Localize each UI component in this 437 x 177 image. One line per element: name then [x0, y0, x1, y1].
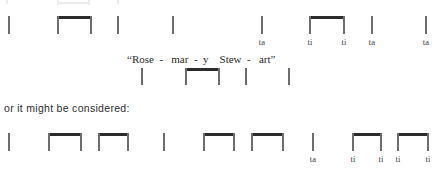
beam-bar: [48, 133, 82, 136]
syllable-label: ti: [341, 37, 346, 47]
quarter-note-stem: [425, 16, 427, 34]
syllable-label: ta: [369, 37, 376, 47]
eighth-note-stem-right: [282, 133, 284, 151]
top-edge-artifact: [57, 2, 90, 4]
beam-bar: [203, 133, 235, 136]
prose-line: or it might be considered:: [4, 102, 130, 114]
beam-bar: [98, 133, 129, 136]
beamed-eighth-note-pair: [251, 133, 284, 151]
syllable-label: ti: [350, 154, 355, 164]
eighth-note-stem-right: [218, 68, 220, 85]
top-edge-artifact: [88, 0, 90, 5]
lyric-line: “Rose - mar - y Stew - art”: [127, 53, 275, 65]
quarter-note-stem: [172, 16, 174, 34]
eighth-note-stem-left: [203, 133, 205, 151]
syllable-label: ti: [395, 154, 400, 164]
quarter-note-stem: [261, 16, 263, 34]
eighth-note-stem-left: [309, 16, 311, 34]
quarter-note-stem: [163, 133, 165, 151]
syllable-label: ta: [423, 37, 430, 47]
syllable-label: ti: [378, 154, 383, 164]
quarter-note-stem: [8, 133, 10, 151]
beam-bar: [251, 133, 284, 136]
rhythm-notation-figure: { "figure": { "title": "Rhythm notation …: [0, 0, 437, 177]
quarter-note-stem: [371, 16, 373, 34]
eighth-note-stem-right: [380, 133, 382, 151]
eighth-note-stem-right: [343, 16, 345, 34]
beamed-eighth-note-pair: [98, 133, 129, 151]
eighth-note-stem-right: [127, 133, 129, 151]
eighth-note-stem-left: [397, 133, 399, 151]
beam-bar: [57, 16, 92, 19]
top-edge-artifact: [57, 0, 59, 5]
beam-bar: [185, 68, 220, 71]
eighth-note-stem-right: [90, 16, 92, 34]
eighth-note-stem-right: [233, 133, 235, 151]
eighth-note-stem-left: [251, 133, 253, 151]
eighth-note-stem-left: [352, 133, 354, 151]
eighth-note-stem-left: [48, 133, 50, 151]
top-edge-artifact: [117, 0, 119, 4]
beamed-eighth-note-pair: [397, 133, 429, 151]
beamed-eighth-note-pair: [48, 133, 82, 151]
eighth-note-stem-right: [80, 133, 82, 151]
beamed-eighth-note-pair: [203, 133, 235, 151]
eighth-note-stem-left: [185, 68, 187, 85]
quarter-note-stem: [8, 16, 10, 34]
eighth-note-stem-left: [57, 16, 59, 34]
beamed-eighth-note-pair: [309, 16, 345, 34]
syllable-label: ti: [425, 154, 430, 164]
beamed-eighth-note-pair: [57, 16, 92, 34]
beam-bar: [309, 16, 345, 19]
syllable-label: ta: [259, 37, 266, 47]
quarter-note-stem: [288, 68, 290, 85]
beam-bar: [352, 133, 382, 136]
quarter-note-stem: [117, 16, 119, 34]
beamed-eighth-note-pair: [185, 68, 220, 85]
top-edge-artifact: [6, 0, 8, 4]
quarter-note-stem: [245, 68, 247, 85]
beamed-eighth-note-pair: [352, 133, 382, 151]
eighth-note-stem-right: [427, 133, 429, 151]
beam-bar: [397, 133, 429, 136]
syllable-label: ti: [307, 37, 312, 47]
quarter-note-stem: [141, 68, 143, 85]
quarter-note-stem: [312, 133, 314, 151]
eighth-note-stem-left: [98, 133, 100, 151]
syllable-label: ta: [310, 154, 317, 164]
